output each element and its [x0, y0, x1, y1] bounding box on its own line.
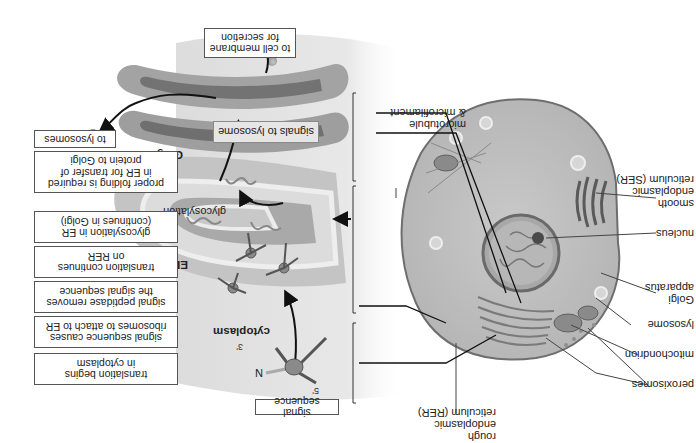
label-mitochondrion: mitochondrion	[625, 349, 694, 361]
callout-to-cell-membrane: to cell membrane for secretion	[204, 28, 296, 58]
step-box-6: proper folding is required in ER for tra…	[34, 151, 178, 193]
step-box-2: signal sequence causes ribosomes to atta…	[34, 316, 178, 348]
step-box-4: translation continues on RER	[34, 246, 178, 278]
label-nucleus: nucleus	[656, 228, 694, 240]
label-peroxisomes: peroxisomes	[632, 379, 694, 391]
label-golgi-apparatus: Golgi apparatus	[645, 282, 694, 306]
label-cytoplasm: cytoplasm	[213, 326, 270, 338]
callout-signals-to-lysosome: signals to lysosome	[213, 121, 319, 143]
label-3-prime: 3'	[236, 341, 243, 353]
label-cytoskeleton: microtubule & microfilament	[390, 107, 466, 131]
label-rough-er: rough endoplasmic reticulum (RER)	[418, 407, 496, 443]
label-lysosome: lysosome	[648, 319, 694, 331]
step-box-1: translation begins in cytoplasm	[34, 353, 178, 385]
step-box-5: glycosylation in ER (continues in Golgi)	[34, 211, 178, 243]
step-box-3: signal peptidase removes the signal sequ…	[34, 281, 178, 313]
label-smooth-er: smooth endoplasmic reticulum (SER)	[616, 174, 694, 210]
callout-signal-sequence: signal sequence	[255, 399, 339, 415]
step-box-7: to lysosomes	[34, 130, 116, 148]
protein-trafficking-diagram: peroxisomes mitochondrion lysosome Golgi…	[0, 0, 696, 443]
label-n-terminus: N	[255, 367, 263, 379]
cell-illustration	[402, 99, 620, 359]
